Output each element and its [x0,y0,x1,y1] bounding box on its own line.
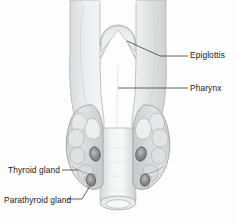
thyroid-gland-left-lobe [66,105,103,189]
thyroid-gland-right-lobe [133,105,170,189]
label-epiglottis: Epiglottis [190,51,225,59]
label-thyroid-gland: Thyroid gland [8,166,60,174]
anatomy-figure [0,0,236,223]
body-midline [117,66,118,132]
label-parathyroid-gland: Parathyroid gland [4,196,71,204]
trachea-shape [100,128,136,206]
trachea-lumen-inner [106,200,130,209]
left-lobe-lobule-2 [68,129,84,147]
right-lobe-lobule-2 [152,129,168,147]
trachea-group [100,128,136,210]
left-lobe-lobule-4 [70,148,85,165]
label-pharynx: Pharynx [190,84,221,92]
right-lobe-lobule-4 [151,148,166,165]
